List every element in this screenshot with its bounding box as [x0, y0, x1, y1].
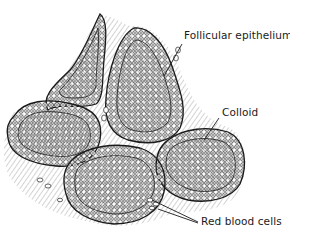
label-colloid: Colloid	[222, 107, 258, 118]
label-red-blood-cells: Red blood cells	[201, 216, 282, 227]
follicle-right	[156, 129, 244, 201]
label-follicular-epithelium: Follicular epithelium	[184, 30, 290, 41]
follicle-top-left	[46, 14, 106, 110]
follicle-bottom	[64, 145, 165, 224]
